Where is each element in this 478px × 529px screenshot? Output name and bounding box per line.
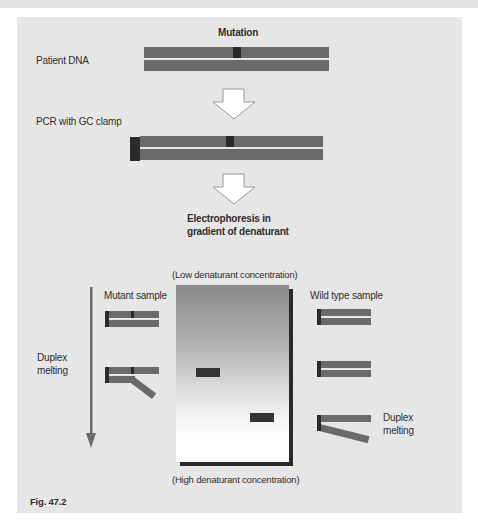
pcr-label: PCR with GC clamp (36, 116, 122, 127)
pcr-bottom-strand (140, 149, 323, 160)
gc-clamp (317, 415, 321, 431)
gel-band-wild-type (250, 413, 274, 422)
gel-band-mutant (196, 368, 220, 377)
patient-dna-bottom-strand (144, 60, 329, 71)
gc-clamp (317, 309, 321, 325)
electrophoresis-label-line2: gradient of denaturant (187, 226, 289, 237)
gc-clamp (105, 311, 109, 327)
mutation-mark (226, 136, 234, 147)
denaturing-gradient-gel (176, 285, 289, 462)
strand (320, 415, 371, 422)
figure-caption: Fig. 47.2 (30, 496, 66, 507)
gc-clamp (105, 367, 109, 383)
page-top-strip (0, 0, 478, 8)
gc-clamp (130, 137, 140, 161)
strand (320, 361, 371, 368)
strand (108, 320, 159, 327)
mutant-sample-label: Mutant sample (104, 290, 167, 301)
high-denaturant-label: (High denaturant concentration) (172, 474, 299, 485)
wild-type-melting-label-line2: melting (383, 425, 414, 436)
strand (320, 318, 371, 325)
mutation-mark (131, 311, 134, 318)
mutant-melting-label-line1: Duplex (37, 352, 67, 363)
wild-type-melting-label-line1: Duplex (383, 412, 413, 423)
down-block-arrow-icon (211, 173, 257, 205)
gc-clamp (317, 361, 321, 377)
strand (320, 370, 371, 377)
mutation-mark (131, 367, 134, 374)
down-block-arrow-icon (211, 88, 257, 120)
strand (320, 309, 371, 316)
low-denaturant-label: (Low denaturant concentration) (172, 269, 298, 280)
patient-dna-label: Patient DNA (36, 55, 89, 66)
mutation-mark (233, 47, 241, 58)
mutant-melting-label-line2: melting (37, 365, 68, 376)
mutation-label: Mutation (218, 27, 258, 38)
migration-direction-arrow-icon (86, 287, 96, 449)
wild-type-sample-label: Wild type sample (310, 290, 383, 301)
electrophoresis-label-line1: Electrophoresis in (187, 213, 271, 224)
